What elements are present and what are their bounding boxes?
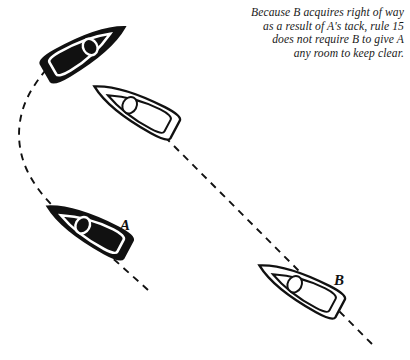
caption-line-3: does not require B to give A (204, 33, 404, 47)
caption-line-2: as a result of A's tack, rule 15 (204, 20, 404, 34)
boat-label-a: A (120, 217, 130, 234)
diagram-canvas: Because B acquires right of way as a res… (0, 0, 410, 360)
caption-line-1: Because B acquires right of way (204, 6, 404, 20)
track-a-dashed (19, 53, 148, 290)
caption-line-4: any room to keep clear. (204, 47, 404, 61)
boat-b-later (87, 73, 182, 142)
boat-b-earlier (252, 252, 347, 321)
boat-a-after-tack (38, 14, 132, 85)
boat-label-b: B (334, 272, 344, 289)
track-b-dashed (160, 132, 372, 344)
caption-block: Because B acquires right of way as a res… (204, 6, 404, 60)
